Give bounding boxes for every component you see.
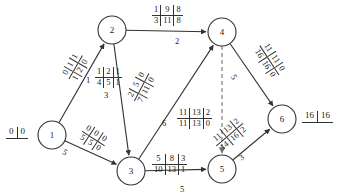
edge-3-5-top-1: 8 xyxy=(165,154,179,164)
edge-2-3-bottom-0: 4 xyxy=(95,77,104,87)
edge-4-5-bottom-1: 13 xyxy=(190,118,204,128)
edge-2-4-bottom-1: 11 xyxy=(161,15,174,25)
edge-3-5-bottom-0: 10 xyxy=(152,164,165,174)
edge-2-4-top-2: 8 xyxy=(174,5,183,15)
edge-4-5-top-1: 13 xyxy=(190,108,204,118)
node-potential-6-left: 16 xyxy=(302,111,318,122)
node-potential-6: 1616 xyxy=(302,111,333,123)
edge-2-3-top-2: 1 xyxy=(113,67,122,77)
node-label-4: 4 xyxy=(220,27,225,37)
edge-3-to-4 xyxy=(139,45,214,159)
node-potential-1: 00 xyxy=(6,127,28,139)
edge-2-to-3 xyxy=(114,44,129,155)
edge-3-5-top-2: 3 xyxy=(179,154,188,164)
node-label-5: 5 xyxy=(220,164,225,174)
node-potential-1-left: 0 xyxy=(6,127,17,138)
node-label-2: 2 xyxy=(110,25,115,35)
node-potential-6-right: 16 xyxy=(318,111,334,122)
node-label-1: 1 xyxy=(50,130,55,140)
edge-2-to-4 xyxy=(126,30,206,31)
edge-2-4-top-1: 9 xyxy=(161,5,174,15)
edge-2-4-bottom-2: 8 xyxy=(174,15,183,25)
edge-2-4-bottom-0: 3 xyxy=(152,15,161,25)
edge-3-5-top-0: 5 xyxy=(152,154,165,164)
edge-2-3-bottom-2: 1 xyxy=(113,77,122,87)
edge-label-4-5: 1113211130 xyxy=(177,108,212,129)
node-label-3: 3 xyxy=(129,166,134,176)
edge-3-5-bottom-1: 13 xyxy=(165,164,179,174)
edge-weight-2-4: 2 xyxy=(175,36,179,46)
edge-label-3-5: 58310131 xyxy=(152,154,187,175)
edge-4-5-bottom-0: 11 xyxy=(177,118,190,128)
edge-4-5-bottom-2: 0 xyxy=(203,118,212,128)
edge-2-3-top-1: 2 xyxy=(104,67,113,77)
edge-2-4-top-0: 1 xyxy=(152,5,161,15)
edge-weight-3-4: 6 xyxy=(162,118,166,128)
edge-label-2-3: 121451 xyxy=(95,67,122,88)
edge-2-3-bottom-1: 5 xyxy=(104,77,113,87)
edge-2-3-top-0: 1 xyxy=(95,67,104,77)
edge-3-5-bottom-2: 1 xyxy=(179,164,188,174)
edge-4-5-top-2: 2 xyxy=(203,108,212,118)
node-potential-1-right: 0 xyxy=(17,127,28,138)
edge-label-2-4: 1983118 xyxy=(152,5,183,26)
edge-4-5-top-0: 11 xyxy=(177,108,190,118)
edge-weight-1-2: 1 xyxy=(86,75,90,85)
node-label-6: 6 xyxy=(280,114,285,124)
edge-weight-3-5: 5 xyxy=(180,184,184,194)
edge-weight-2-3: 3 xyxy=(104,90,108,100)
